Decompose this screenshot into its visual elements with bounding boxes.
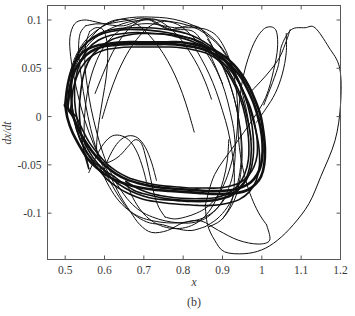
x-tick-label: 0.5 — [58, 264, 73, 276]
x-tick-label: 0.8 — [176, 264, 191, 276]
x-tick-label: 0.9 — [215, 264, 230, 276]
y-tick-label: 0 — [36, 111, 42, 123]
x-tick-label: 0.7 — [137, 264, 152, 276]
x-tick-label: 0.6 — [97, 264, 112, 276]
x-axis-label: x — [190, 276, 197, 288]
y-tick-label: 0.05 — [21, 62, 41, 74]
x-tick-label: 1.1 — [294, 264, 309, 276]
phase-portrait-chart: 0.50.60.70.80.911.11.2 0.10.050-0.05-0.1… — [0, 0, 355, 316]
x-tick-label: 1 — [259, 264, 265, 276]
figure-caption: (b) — [187, 295, 201, 309]
y-tick-label: -0.05 — [18, 159, 42, 171]
y-axis-label: dx/dt — [1, 121, 13, 145]
y-tick-label: -0.1 — [23, 207, 41, 219]
x-tick-label: 1.2 — [333, 264, 348, 276]
y-tick-label: 0.1 — [27, 14, 42, 26]
phase-portrait-figure: 0.50.60.70.80.911.11.2 0.10.050-0.05-0.1… — [0, 0, 355, 316]
